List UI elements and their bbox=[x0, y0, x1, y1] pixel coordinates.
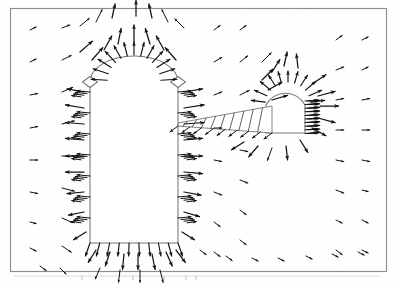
vector-field-figure bbox=[0, 0, 394, 286]
figure-background bbox=[0, 0, 394, 286]
figure-root bbox=[0, 0, 394, 286]
